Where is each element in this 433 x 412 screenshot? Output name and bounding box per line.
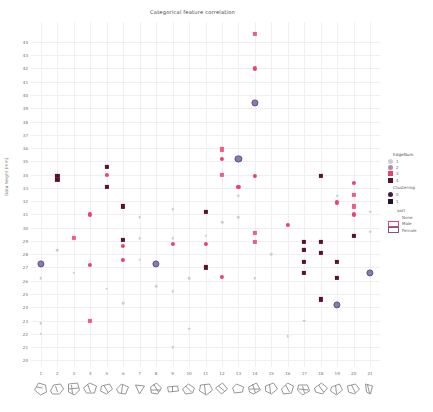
data-point [105, 184, 109, 188]
data-point [303, 319, 306, 322]
data-point [335, 200, 339, 204]
data-point [254, 277, 257, 280]
y-gridline [31, 188, 380, 189]
data-point [121, 238, 125, 242]
data-point [203, 242, 207, 246]
x-tick-label: 1 [40, 371, 43, 376]
y-gridline [31, 228, 380, 229]
legend-swatch [388, 192, 393, 197]
data-point [121, 244, 125, 248]
legend-item-label: 0 [396, 192, 399, 197]
y-tick-label: 39 [23, 106, 28, 111]
x-gridline [57, 22, 58, 367]
y-tick-label: 25 [23, 292, 28, 297]
y-tick-label: 42 [23, 66, 28, 71]
data-point [88, 212, 92, 216]
x-tick-label: 19 [335, 371, 340, 376]
data-point [88, 318, 92, 322]
data-point [319, 240, 323, 244]
x-axis-shape-glyph [263, 381, 280, 402]
y-tick-label: 34 [23, 172, 28, 177]
x-gridline [288, 22, 289, 367]
x-tick-label: 17 [302, 371, 307, 376]
data-point [171, 208, 174, 211]
x-gridline [189, 22, 190, 367]
data-point [237, 216, 240, 219]
y-gridline [31, 42, 380, 43]
y-gridline [31, 68, 380, 69]
data-point [253, 240, 257, 244]
x-axis-shape-glyph [164, 381, 181, 402]
x-gridline [304, 22, 305, 367]
data-point [170, 242, 174, 246]
data-point [88, 263, 92, 267]
data-point [302, 260, 306, 264]
data-point [335, 276, 339, 280]
y-gridline [31, 360, 380, 361]
data-point [138, 237, 141, 240]
data-point [369, 230, 372, 233]
data-point [153, 260, 160, 267]
y-gridline [31, 294, 380, 295]
x-tick-label: 4 [89, 371, 92, 376]
x-tick-label: 10 [186, 371, 191, 376]
data-point [336, 195, 339, 198]
data-point [40, 322, 43, 325]
data-point [105, 165, 109, 169]
data-point [72, 236, 76, 240]
data-point [221, 221, 224, 224]
x-axis-shape-glyph [82, 381, 99, 402]
legend-group3-title: sort [397, 208, 432, 213]
legend-swatch [388, 159, 393, 164]
x-axis-shape-glyph [65, 381, 82, 402]
x-tick-label: 9 [171, 371, 174, 376]
x-tick-label: 6 [122, 371, 125, 376]
x-axis-shape-glyph [312, 381, 329, 402]
data-point [302, 240, 306, 244]
y-tick-label: 44 [23, 39, 28, 44]
data-point [220, 157, 224, 161]
legend-group3-items: NoneMaleFemale [388, 215, 432, 234]
y-tick-label: 35 [23, 159, 28, 164]
data-point [251, 99, 258, 106]
data-point [253, 32, 257, 36]
x-axis-shape-glyph [115, 381, 132, 402]
data-point [367, 269, 374, 276]
data-point [188, 277, 191, 280]
x-axis-shape-glyph [246, 381, 263, 402]
y-gridline [31, 281, 380, 282]
x-axis-shape-glyph [131, 381, 148, 402]
y-gridline [31, 148, 380, 149]
data-point [40, 333, 43, 336]
data-point [55, 178, 59, 182]
y-gridline [31, 175, 380, 176]
data-point [352, 192, 356, 196]
legend-item[interactable]: Female [388, 227, 432, 233]
x-tick-label: 20 [351, 371, 356, 376]
x-tick-label: 12 [219, 371, 224, 376]
data-point [105, 173, 109, 177]
x-gridline [321, 22, 322, 367]
data-point [286, 223, 290, 227]
data-point [138, 258, 141, 261]
y-tick-label: 43 [23, 53, 28, 58]
data-point [253, 66, 257, 70]
legend-item-label: 1 [396, 159, 399, 164]
x-axis-shape-glyph [148, 381, 165, 402]
y-tick-label: 28 [23, 252, 28, 257]
y-tick-label: 21 [23, 345, 28, 350]
y-tick-label: 36 [23, 146, 28, 151]
y-gridline [31, 82, 380, 83]
data-point [220, 275, 224, 279]
data-point [369, 210, 372, 213]
x-gridline [107, 22, 108, 367]
x-axis-shape-glyph [98, 381, 115, 402]
data-point [171, 237, 174, 240]
y-gridline [31, 161, 380, 162]
legend-item[interactable]: 4 [388, 177, 432, 183]
x-gridline [41, 22, 42, 367]
legend-item-label: 4 [396, 178, 399, 183]
x-axis-shape-glyph [230, 381, 247, 402]
chart-title: Categorical feature correlation [0, 9, 385, 15]
x-axis-shape-glyph [213, 381, 230, 402]
